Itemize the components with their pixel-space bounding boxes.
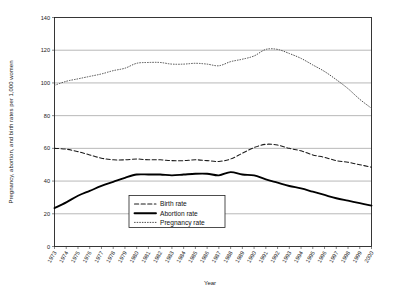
legend-label: Birth rate [160, 200, 187, 207]
x-tick-label: 1999 [351, 250, 362, 264]
series-line-birth-rate [55, 144, 372, 167]
x-tick-label: 1997 [328, 250, 339, 264]
chart-legend: Birth rateAbortion ratePregnancy rate [129, 196, 225, 228]
y-tick-label: 80 [44, 113, 50, 119]
x-tick-label: 1974 [58, 250, 69, 264]
legend-label: Abortion rate [160, 210, 198, 217]
y-tick-label: 0 [47, 244, 50, 250]
x-tick-label: 1975 [70, 250, 81, 264]
y-axis-title: Pregnancy, abortion, and birth rates per… [8, 61, 14, 204]
x-tick-label: 1978 [105, 250, 116, 264]
y-axis-ticks: 020406080100120140 [41, 15, 55, 250]
x-tick-label: 1986 [199, 250, 210, 264]
data-series-group [55, 49, 372, 208]
y-tick-label: 20 [44, 211, 50, 217]
x-tick-label: 1995 [304, 250, 315, 264]
x-tick-label: 1980 [128, 250, 139, 264]
x-tick-label: 1976 [81, 250, 92, 264]
x-tick-label: 1989 [234, 250, 245, 264]
x-tick-label: 1990 [246, 250, 257, 264]
series-line-pregnancy-rate [55, 49, 372, 109]
x-tick-label: 1982 [152, 250, 163, 264]
y-tick-label: 100 [41, 80, 50, 86]
x-tick-label: 1985 [187, 250, 198, 264]
x-tick-label: 1973 [46, 250, 57, 264]
x-axis-title: Year [204, 280, 216, 286]
x-tick-label: 1983 [164, 250, 175, 264]
x-tick-label: 1987 [211, 250, 222, 264]
x-tick-label: 1996 [316, 250, 327, 264]
x-tick-label: 1977 [93, 250, 104, 264]
x-tick-label: 1979 [117, 250, 128, 264]
x-tick-label: 1981 [140, 250, 151, 264]
y-tick-label: 60 [44, 145, 50, 151]
x-tick-label: 1984 [175, 250, 186, 264]
x-tick-label: 1991 [257, 250, 268, 264]
legend-label: Pregnancy rate [160, 219, 205, 227]
x-tick-label: 2000 [363, 250, 374, 264]
x-tick-label: 1994 [293, 250, 304, 264]
chart-figure: 020406080100120140 197319741975197619771… [0, 0, 408, 295]
y-tick-label: 120 [41, 47, 50, 53]
grid-lines [55, 50, 372, 214]
x-tick-label: 1992 [269, 250, 280, 264]
y-tick-label: 40 [44, 178, 50, 184]
x-tick-label: 1993 [281, 250, 292, 264]
x-tick-label: 1988 [222, 250, 233, 264]
line-chart: 020406080100120140 197319741975197619771… [0, 0, 408, 295]
x-axis-ticks: 1973197419751976197719781979198019811982… [46, 247, 374, 264]
y-tick-label: 140 [41, 15, 50, 21]
x-tick-label: 1998 [340, 250, 351, 264]
